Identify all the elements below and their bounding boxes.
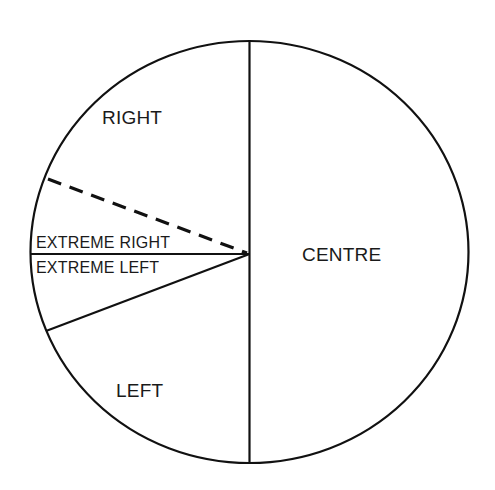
segment-label-centre: CENTRE	[302, 245, 381, 264]
segment-label-extreme-right: EXTREME RIGHT	[36, 235, 170, 251]
segment-label-right: RIGHT	[102, 108, 162, 127]
diagram-canvas: RIGHT CENTRE LEFT EXTREME RIGHT EXTREME …	[0, 0, 495, 490]
segment-label-left: LEFT	[116, 381, 163, 400]
segment-label-extreme-left: EXTREME LEFT	[36, 260, 159, 276]
